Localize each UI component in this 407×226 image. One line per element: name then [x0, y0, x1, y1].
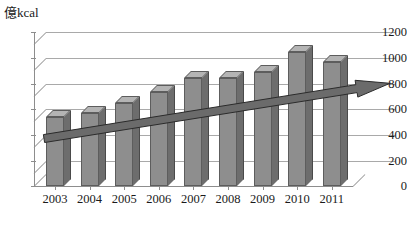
- chart-root: 億kcal 1200 1000 800 600 4: [0, 0, 407, 226]
- trend-arrow: [0, 0, 407, 226]
- plot-area: 1200 1000 800 600 400 200 0 200320042005…: [0, 0, 407, 226]
- figure-caption: [0, 218, 407, 226]
